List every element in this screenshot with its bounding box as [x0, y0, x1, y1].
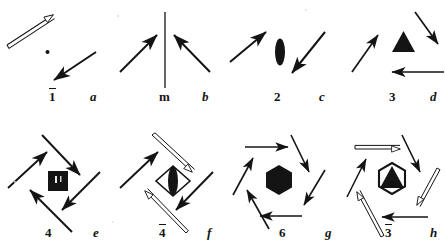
panel-label-6: 6	[279, 226, 286, 239]
panel-label-3bar-text: 3	[385, 226, 392, 239]
panel-label-1bar-text: 1	[49, 90, 56, 103]
panel-letter-a: a	[90, 90, 97, 103]
square-glyph-highlight-2	[60, 176, 62, 182]
panel-letter-b: b	[202, 90, 209, 103]
rotoinversion-lens-glyph	[168, 167, 178, 196]
panel-label-4bar-text: 4	[159, 226, 166, 239]
panel-label-4bar: 4	[159, 226, 166, 239]
scan-speckle	[247, 204, 249, 206]
panel-label-m: m	[159, 90, 170, 103]
symmetry-diagram-figure	[0, 0, 445, 243]
panel-label-3bar: 3	[385, 226, 392, 239]
panel-letter-e: e	[93, 226, 99, 239]
panel-label-1bar: 1	[49, 90, 56, 103]
scan-speckle	[305, 9, 307, 11]
panel-letter-h: h	[430, 226, 437, 239]
panel-label-4: 4	[45, 226, 52, 239]
scan-speckle	[117, 15, 119, 17]
inversion-center-point	[46, 50, 50, 54]
panel-letter-g: g	[325, 226, 332, 239]
panel-label-3: 3	[389, 90, 396, 103]
panel-label-2: 2	[274, 90, 281, 103]
four-fold-square-glyph	[48, 171, 68, 191]
scan-speckle	[14, 181, 16, 183]
two-fold-lens-glyph	[275, 39, 285, 66]
panel-letter-f: f	[207, 226, 211, 239]
panel-letter-c: c	[319, 90, 325, 103]
scan-speckle	[112, 221, 114, 223]
panel-letter-d: d	[430, 90, 437, 103]
square-glyph-highlight	[55, 176, 57, 183]
